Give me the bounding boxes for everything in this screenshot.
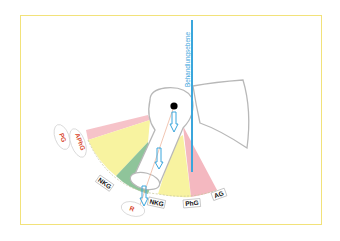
shoulder-joint-diagram: Behandlungsebene PG APhG R NKG NKG PhG A…	[0, 0, 340, 241]
pivot-dot	[170, 102, 177, 109]
svg-text:PhG: PhG	[185, 199, 199, 207]
phg-box: PhG	[183, 199, 201, 208]
nkg-bottom-box: NKG	[147, 197, 165, 208]
svg-text:NKG: NKG	[149, 198, 165, 208]
plane-label: Behandlungsebene	[184, 31, 192, 87]
scapula	[193, 80, 249, 148]
nkg-left-box: NKG	[95, 175, 114, 191]
